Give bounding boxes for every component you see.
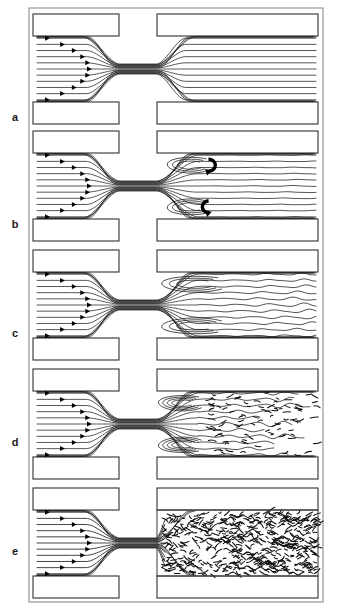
turbulent-filament bbox=[276, 549, 282, 551]
turbulent-filament bbox=[209, 414, 214, 415]
core-streamline bbox=[37, 186, 316, 187]
inlet-velocity-arrowhead bbox=[60, 327, 65, 332]
inlet-velocity-arrowhead bbox=[80, 290, 85, 295]
turbulent-filament bbox=[205, 535, 212, 536]
turbulent-filament bbox=[209, 408, 213, 410]
recirculation-streamline bbox=[172, 400, 192, 406]
turbulent-filament bbox=[252, 528, 258, 529]
inlet-velocity-arrowhead bbox=[85, 415, 90, 420]
turbulent-filament bbox=[259, 542, 262, 545]
turbulent-filament bbox=[289, 539, 293, 542]
turbulent-filament bbox=[310, 417, 318, 418]
inlet-velocity-arrowhead bbox=[80, 54, 85, 59]
inlet-velocity-arrowhead bbox=[60, 278, 65, 283]
turbulent-filament bbox=[227, 394, 234, 398]
turbulent-filament bbox=[314, 442, 322, 444]
turbulent-filament bbox=[167, 539, 172, 543]
turbulent-filament bbox=[178, 544, 183, 546]
inlet-velocity-arrowhead bbox=[80, 79, 85, 84]
turbulent-filament bbox=[276, 398, 279, 399]
downstream-lower-wall bbox=[157, 102, 318, 124]
turbulent-filament bbox=[314, 562, 317, 563]
panel-a-streamlines bbox=[37, 38, 316, 100]
turbulent-filament bbox=[284, 405, 290, 407]
turbulent-filament bbox=[252, 424, 255, 425]
inlet-velocity-arrowhead bbox=[80, 196, 85, 201]
turbulent-filament bbox=[269, 433, 273, 434]
turbulent-filament bbox=[312, 402, 317, 403]
inlet-velocity-arrowhead bbox=[72, 202, 77, 207]
downstream-upper-wall bbox=[157, 488, 318, 510]
inlet-velocity-arrowhead bbox=[85, 309, 90, 314]
inlet-velocity-arrowhead bbox=[72, 85, 77, 90]
turbulent-filament bbox=[258, 553, 262, 554]
inlet-velocity-arrowhead bbox=[87, 303, 92, 308]
turbulent-filament bbox=[283, 412, 291, 413]
turbulent-filament bbox=[211, 406, 214, 407]
upstream-lower-wall bbox=[33, 457, 119, 479]
inlet-velocity-arrowhead bbox=[87, 184, 92, 189]
turbulent-filament bbox=[206, 427, 213, 429]
inlet-velocity-arrowhead bbox=[85, 190, 90, 195]
turbulent-filament bbox=[189, 516, 191, 519]
turbulent-filament bbox=[214, 570, 218, 571]
core-streamline bbox=[37, 545, 165, 555]
turbulent-filament bbox=[215, 450, 222, 451]
turbulent-filament bbox=[213, 395, 216, 396]
turbulent-filament bbox=[298, 527, 302, 528]
inlet-velocity-arrowhead bbox=[60, 42, 65, 47]
turbulent-filament bbox=[171, 553, 178, 555]
upstream-upper-wall bbox=[33, 250, 119, 272]
turbulent-filament bbox=[254, 401, 260, 402]
core-streamline bbox=[37, 428, 274, 450]
upstream-upper-wall bbox=[33, 488, 119, 510]
downstream-upper-wall bbox=[157, 250, 318, 272]
turbulent-filament bbox=[204, 570, 209, 572]
inlet-velocity-arrowhead bbox=[72, 559, 77, 564]
turbulent-filament bbox=[248, 547, 251, 548]
turbulent-filament bbox=[295, 528, 297, 530]
turbulent-filament bbox=[258, 420, 262, 421]
turbulent-filament bbox=[222, 420, 226, 422]
flow-regimes-figure: abcde bbox=[0, 0, 339, 611]
turbulent-filament bbox=[196, 555, 199, 558]
turbulent-filament bbox=[247, 406, 250, 407]
turbulent-filament bbox=[179, 531, 183, 533]
recirculation-streamline bbox=[178, 203, 201, 211]
turbulent-streak bbox=[230, 522, 243, 525]
turbulent-filament bbox=[283, 451, 288, 453]
inlet-velocity-arrowhead bbox=[60, 565, 65, 570]
inlet-velocity-arrowhead bbox=[85, 60, 90, 65]
inlet-velocity-arrowhead bbox=[85, 547, 90, 552]
turbulent-filament bbox=[299, 531, 304, 536]
core-streamline bbox=[37, 179, 316, 185]
core-streamline bbox=[37, 518, 165, 539]
core-streamline bbox=[37, 57, 316, 67]
core-streamline bbox=[37, 306, 316, 313]
turbulent-filament bbox=[242, 440, 246, 441]
turbulent-filament bbox=[202, 574, 207, 575]
turbulent-filament bbox=[206, 547, 208, 549]
turbulent-filament bbox=[193, 554, 198, 557]
turbulent-filament bbox=[305, 553, 309, 558]
inlet-velocity-arrowhead bbox=[72, 440, 77, 445]
downstream-lower-wall bbox=[157, 576, 318, 598]
turbulent-filament bbox=[162, 566, 164, 568]
turbulent-filament bbox=[297, 422, 300, 423]
inlet-velocity-arrowhead bbox=[60, 397, 65, 402]
recirculation-streamline bbox=[172, 442, 192, 448]
core-streamline bbox=[37, 189, 316, 205]
inlet-velocity-arrowhead bbox=[80, 409, 85, 414]
inlet-velocity-arrowhead bbox=[85, 428, 90, 433]
turbulent-filament bbox=[225, 443, 228, 444]
turbulent-filament bbox=[268, 530, 272, 531]
turbulent-filament bbox=[223, 558, 226, 559]
upstream-upper-wall bbox=[33, 14, 119, 36]
turbulent-filament bbox=[271, 527, 274, 528]
turbulent-filament bbox=[238, 420, 243, 422]
turbulent-filament bbox=[185, 527, 190, 530]
inlet-velocity-arrowhead bbox=[72, 165, 77, 170]
turbulent-filament bbox=[295, 454, 300, 455]
turbulent-filament bbox=[178, 558, 183, 559]
panel-e-streamlines bbox=[37, 512, 165, 574]
